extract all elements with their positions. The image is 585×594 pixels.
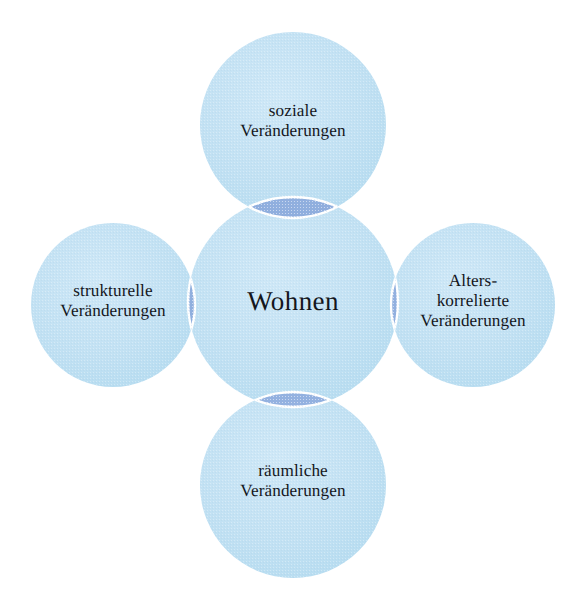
venn-diagram: soziale Veränderungen strukturelle Verän… bbox=[0, 0, 585, 594]
venn-diagram-canvas bbox=[0, 0, 585, 594]
paper-grain-overlay bbox=[31, 32, 555, 578]
